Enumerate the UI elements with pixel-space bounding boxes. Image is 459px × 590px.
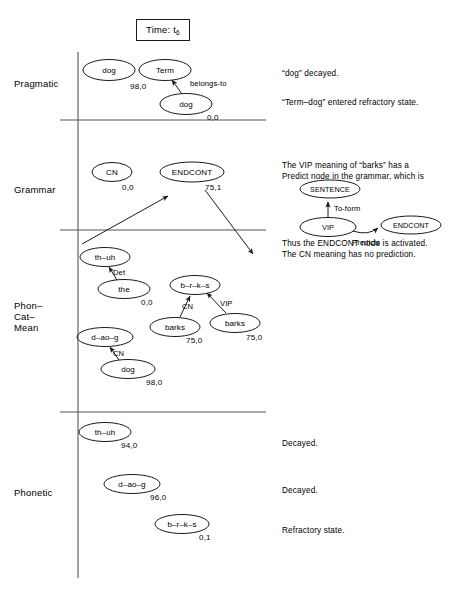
node-term: Term [139, 60, 191, 81]
node-dog-pcm-activation: 98,0 [146, 378, 163, 387]
edge-label-vip-barks: VIP [220, 299, 233, 308]
node-d-ao-g-phonetic-activation: 96,0 [150, 493, 167, 502]
edge-label-cn-barks: CN [182, 302, 193, 311]
node-barks-cn: barks 75,0 [150, 318, 203, 346]
edge-activation-up-to-endcont [82, 196, 168, 244]
node-d-ao-g-pcm: d–ao–g [77, 328, 133, 347]
node-term-label: Term [156, 66, 174, 75]
node-barks-vip-activation: 75,0 [246, 333, 263, 342]
edge-predicts [353, 228, 378, 233]
diagram-page: Time: t6 Pragmatic Grammar Phon– Cat– Me… [0, 0, 459, 590]
node-endcont-grammar-label: ENDCONT [172, 168, 212, 177]
node-dog-pcm: dog 98,0 [101, 360, 163, 388]
node-dog-pragmatic-right-label: dog [179, 100, 193, 109]
edge-label-to-form: To-form [334, 204, 360, 213]
edge-label-belongs-to: belongs-to [190, 79, 226, 88]
node-barks-cn-activation: 75,0 [186, 336, 203, 345]
node-dog-pragmatic-left: dog 98,0 [83, 60, 147, 92]
node-the-label: the [118, 285, 130, 294]
node-b-r-k-s-pcm: b–r–k–s [170, 276, 220, 295]
node-d-ao-g-pcm-label: d–ao–g [91, 333, 118, 342]
node-b-r-k-s-pcm-label: b–r–k–s [180, 281, 209, 290]
node-vip-inset-label: VIP [322, 223, 334, 232]
diagram-canvas: dog 98,0 Term dog 0,0 belongs-to CN 0,0 … [0, 0, 459, 590]
node-cn-grammar: CN 0,0 [92, 163, 134, 193]
edge-label-predicts: Predicts [352, 238, 380, 247]
node-cn-grammar-activation: 0,0 [122, 183, 134, 192]
node-th-uh-phonetic-label: th–uh [95, 428, 116, 437]
node-th-uh-pcm-label: th–uh [95, 253, 116, 262]
node-sentence-inset-label: SENTENCE [310, 185, 350, 194]
node-barks-vip: barks 75,0 [210, 314, 263, 343]
node-endcont-inset: ENDCONT [381, 216, 441, 234]
edge-label-cn-dog: CN [113, 349, 124, 358]
node-sentence-inset: SENTENCE [300, 180, 360, 198]
node-d-ao-g-phonetic: d–ao–g 96,0 [104, 475, 167, 503]
node-endcont-grammar-activation: 75,1 [205, 183, 222, 192]
node-th-uh-pcm: th–uh [80, 248, 130, 267]
node-cn-grammar-label: CN [106, 168, 118, 177]
node-dog-pragmatic-right: dog 0,0 [160, 94, 219, 123]
node-b-r-k-s-phonetic: b–r–k–s 0,1 [155, 515, 211, 543]
node-endcont-inset-label: ENDCONT [393, 221, 430, 230]
node-th-uh-phonetic: th–uh 94,0 [79, 423, 138, 451]
node-barks-cn-label: barks [165, 323, 185, 332]
edge-belongs-to [172, 80, 182, 94]
node-the: the 0,0 [98, 280, 153, 308]
node-dog-pcm-label: dog [121, 365, 135, 374]
node-d-ao-g-phonetic-label: d–ao–g [118, 480, 145, 489]
node-endcont-grammar: ENDCONT 75,1 [160, 162, 224, 192]
node-b-r-k-s-phonetic-activation: 0,1 [199, 533, 211, 542]
node-dog-pragmatic-left-label: dog [102, 66, 116, 75]
node-the-activation: 0,0 [141, 298, 153, 307]
edge-prediction-down-right [205, 190, 253, 254]
node-barks-vip-label: barks [225, 319, 245, 328]
node-vip-inset: VIP [300, 218, 356, 237]
node-b-r-k-s-phonetic-label: b–r–k–s [167, 520, 196, 529]
node-dog-pragmatic-right-activation: 0,0 [207, 113, 219, 122]
node-dog-pragmatic-left-activation: 98,0 [130, 82, 147, 91]
edge-label-det: Det [113, 268, 126, 277]
node-th-uh-phonetic-activation: 94,0 [121, 441, 138, 450]
